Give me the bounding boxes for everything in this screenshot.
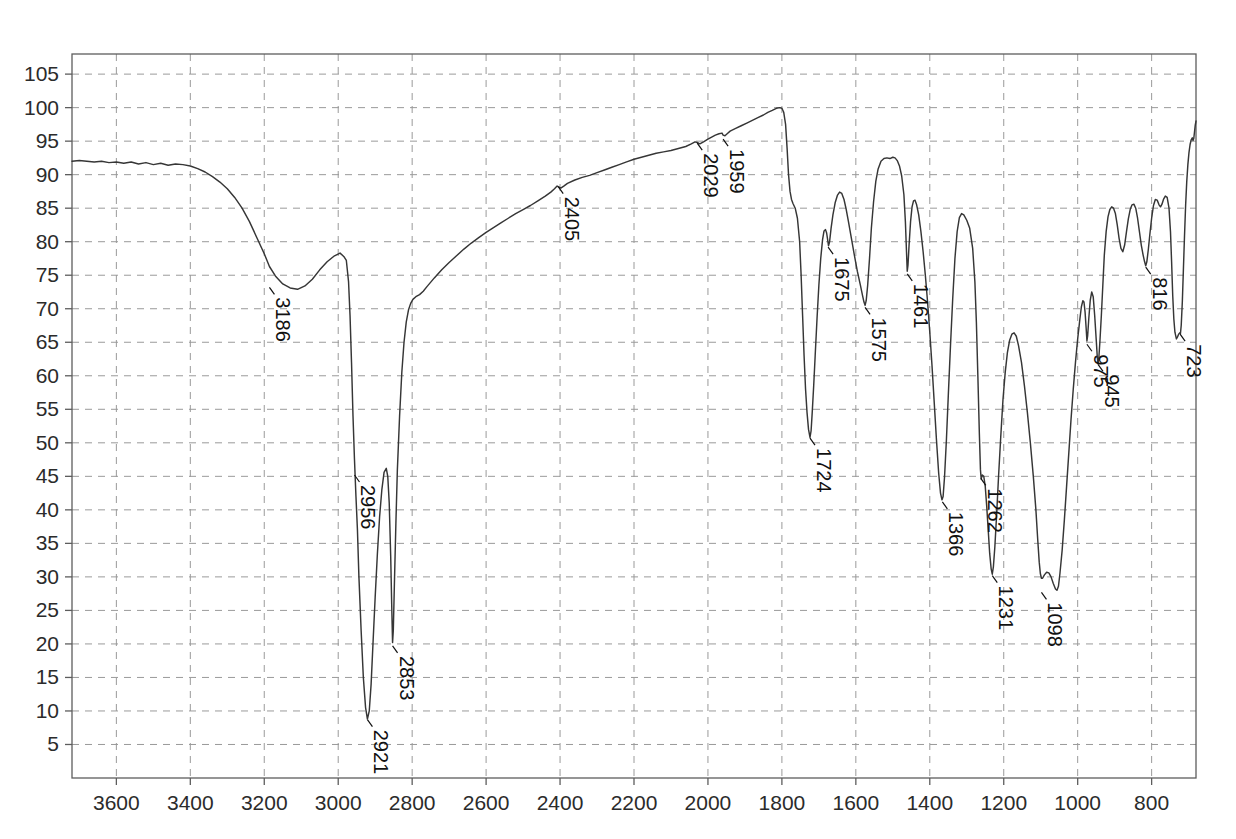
peak-leader-line bbox=[828, 247, 833, 254]
peak-label: 1366 bbox=[945, 512, 967, 556]
peak-leader-line bbox=[393, 646, 398, 653]
x-tick-label: 1400 bbox=[906, 791, 953, 814]
peak-annotation: 3186 bbox=[269, 287, 294, 342]
x-tick-label: 2000 bbox=[685, 791, 732, 814]
peak-label: 3186 bbox=[272, 297, 294, 342]
peak-label: 1724 bbox=[813, 448, 835, 493]
peak-annotation: 2853 bbox=[393, 646, 418, 701]
ir-spectrum-chart: 1051009590858075706560555045403530252015… bbox=[0, 0, 1236, 839]
y-tick-label: 35 bbox=[36, 531, 59, 554]
peak-leader-line bbox=[810, 438, 815, 445]
y-tick-label: 15 bbox=[36, 665, 59, 688]
peak-label: 1675 bbox=[831, 257, 853, 302]
peak-leader-line bbox=[942, 502, 947, 509]
peak-leader-line bbox=[269, 287, 274, 294]
x-tick-label: 2400 bbox=[537, 791, 584, 814]
y-tick-label: 40 bbox=[36, 498, 59, 521]
peak-label: 2853 bbox=[396, 656, 418, 701]
y-tick-label: 75 bbox=[36, 263, 59, 286]
x-tick-label: 1200 bbox=[980, 791, 1027, 814]
y-tick-label: 70 bbox=[36, 297, 59, 320]
peak-label: 2921 bbox=[370, 730, 392, 775]
peak-annotation: 2405 bbox=[558, 187, 583, 242]
peak-annotation: 2029 bbox=[697, 143, 722, 198]
peak-annotation: 1098 bbox=[1041, 592, 1066, 647]
peak-annotation: 1724 bbox=[810, 438, 835, 493]
y-tick-label: 95 bbox=[36, 129, 59, 152]
peak-label: 1959 bbox=[726, 149, 748, 194]
y-tick-label: 10 bbox=[36, 699, 59, 722]
peak-leader-line bbox=[1041, 592, 1046, 599]
peak-label: 2956 bbox=[357, 485, 379, 529]
y-tick-label: 45 bbox=[36, 464, 59, 487]
peak-annotation: 2921 bbox=[367, 720, 392, 775]
x-tick-label: 3400 bbox=[167, 791, 214, 814]
y-tick-label: 85 bbox=[36, 196, 59, 219]
x-tick-label: 3000 bbox=[315, 791, 362, 814]
x-tick-label: 1600 bbox=[832, 791, 879, 814]
x-tick-label: 800 bbox=[1134, 791, 1169, 814]
peak-annotation: 1231 bbox=[992, 576, 1017, 631]
peak-leader-line bbox=[1087, 344, 1092, 351]
peak-label: 1262 bbox=[984, 488, 1006, 533]
peak-annotation: 1575 bbox=[865, 307, 890, 362]
peak-annotations: 3186295629212853240520291959172416751575… bbox=[269, 139, 1205, 774]
x-tick-label: 1000 bbox=[1054, 791, 1101, 814]
spectrum-canvas: 1051009590858075706560555045403530252015… bbox=[0, 0, 1236, 839]
peak-leader-line bbox=[1180, 334, 1185, 341]
peak-annotation: 723 bbox=[1180, 334, 1205, 377]
peak-label: 1098 bbox=[1044, 602, 1066, 647]
x-tick-label: 3600 bbox=[93, 791, 140, 814]
peak-annotation: 1675 bbox=[828, 247, 853, 301]
peak-annotation: 2956 bbox=[354, 475, 379, 529]
peak-leader-line bbox=[723, 139, 728, 146]
y-tick-label: 55 bbox=[36, 397, 59, 420]
x-tick-label: 2200 bbox=[611, 791, 658, 814]
x-tick-label: 2600 bbox=[463, 791, 510, 814]
x-axis-ticks: 3600340032003000280026002400220020001800… bbox=[93, 778, 1169, 814]
peak-leader-line bbox=[1146, 267, 1151, 274]
peak-label: 945 bbox=[1101, 374, 1123, 407]
x-tick-label: 3200 bbox=[241, 791, 288, 814]
y-tick-label: 30 bbox=[36, 565, 59, 588]
y-tick-label: 80 bbox=[36, 230, 59, 253]
y-tick-label: 60 bbox=[36, 364, 59, 387]
peak-label: 1575 bbox=[868, 317, 890, 362]
peak-label: 816 bbox=[1149, 277, 1171, 310]
peak-label: 2405 bbox=[561, 197, 583, 242]
y-tick-label: 105 bbox=[24, 62, 59, 85]
y-tick-label: 5 bbox=[47, 732, 59, 755]
y-tick-label: 100 bbox=[24, 96, 59, 119]
y-tick-label: 50 bbox=[36, 431, 59, 454]
y-tick-label: 25 bbox=[36, 598, 59, 621]
peak-annotation: 1959 bbox=[723, 139, 748, 194]
peak-annotation: 816 bbox=[1146, 267, 1171, 310]
peak-label: 723 bbox=[1183, 344, 1205, 377]
peak-label: 1461 bbox=[910, 284, 932, 329]
y-axis-ticks: 1051009590858075706560555045403530252015… bbox=[24, 62, 72, 755]
peak-annotation: 1461 bbox=[907, 274, 932, 329]
peak-leader-line bbox=[367, 720, 372, 727]
y-tick-label: 65 bbox=[36, 330, 59, 353]
x-tick-label: 1800 bbox=[759, 791, 806, 814]
peak-label: 1231 bbox=[995, 586, 1017, 631]
y-tick-label: 90 bbox=[36, 163, 59, 186]
y-tick-label: 20 bbox=[36, 632, 59, 655]
x-tick-label: 2800 bbox=[389, 791, 436, 814]
peak-label: 2029 bbox=[700, 153, 722, 198]
